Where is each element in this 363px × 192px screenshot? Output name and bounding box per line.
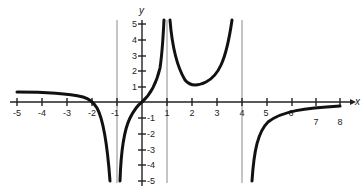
curve-branch-left (17, 92, 110, 181)
svg-text:-4: -4 (147, 160, 155, 170)
y-tick-labels-negative: -1 -2 -3 -4 -5 (147, 113, 155, 186)
svg-text:-3: -3 (63, 108, 71, 118)
svg-text:7: 7 (313, 117, 318, 127)
svg-text:4: 4 (132, 35, 137, 45)
svg-text:2: 2 (189, 108, 194, 118)
svg-text:3: 3 (214, 108, 219, 118)
svg-text:-2: -2 (88, 108, 96, 118)
svg-text:-3: -3 (147, 145, 155, 155)
svg-text:-5: -5 (147, 176, 155, 186)
svg-text:4: 4 (239, 108, 244, 118)
svg-text:-1: -1 (147, 113, 155, 123)
x-axis-label: x (354, 96, 361, 107)
svg-text:-2: -2 (147, 129, 155, 139)
y-tick-labels: 5 4 3 2 1 (132, 19, 137, 92)
function-graph: y x -5 -4 -3 -2 -1 1 2 3 4 5 6 7 8 5 4 3… (0, 0, 363, 192)
y-axis-label: y (138, 5, 145, 16)
svg-text:-1: -1 (111, 108, 119, 118)
svg-text:5: 5 (263, 108, 268, 118)
svg-text:3: 3 (132, 51, 137, 61)
svg-text:2: 2 (132, 66, 137, 76)
svg-text:1: 1 (164, 108, 169, 118)
svg-text:1: 1 (132, 82, 137, 92)
svg-text:-4: -4 (38, 108, 46, 118)
svg-text:-5: -5 (13, 108, 21, 118)
curve-branch-right-center (170, 20, 232, 85)
svg-text:5: 5 (132, 19, 137, 29)
x-axis (10, 98, 350, 106)
svg-text:8: 8 (337, 117, 342, 127)
